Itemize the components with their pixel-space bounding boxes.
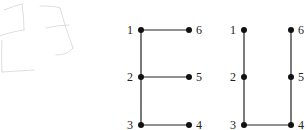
node-1 <box>241 27 247 33</box>
node-2 <box>138 74 144 80</box>
node-1 <box>138 27 144 33</box>
node-label-4: 4 <box>298 118 304 130</box>
graph-E: 123456 <box>127 23 202 130</box>
node-label-3: 3 <box>230 118 236 130</box>
node-label-2: 2 <box>230 70 236 84</box>
node-label-5: 5 <box>196 70 202 84</box>
node-label-1: 1 <box>230 23 236 37</box>
node-label-3: 3 <box>127 118 133 130</box>
node-label-1: 1 <box>127 23 133 37</box>
node-2 <box>241 74 247 80</box>
node-3 <box>241 122 247 128</box>
graph-U: 123456 <box>230 23 304 130</box>
node-6 <box>186 27 192 33</box>
node-label-6: 6 <box>196 23 202 37</box>
node-4 <box>288 122 294 128</box>
node-3 <box>138 122 144 128</box>
node-5 <box>186 74 192 80</box>
node-label-6: 6 <box>298 23 304 37</box>
graph-figure: 123456123456 <box>0 0 308 130</box>
node-label-2: 2 <box>127 70 133 84</box>
node-6 <box>288 27 294 33</box>
pencil-sketch <box>0 4 73 72</box>
node-label-5: 5 <box>298 70 304 84</box>
diagram-canvas: 123456123456 <box>0 0 308 130</box>
node-4 <box>186 122 192 128</box>
node-label-4: 4 <box>196 118 202 130</box>
node-5 <box>288 74 294 80</box>
